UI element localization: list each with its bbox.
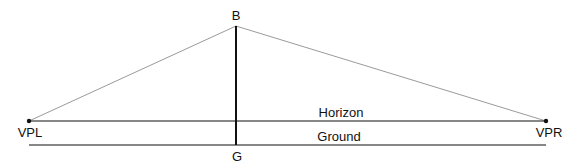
label-ground: Ground — [317, 129, 360, 144]
label-horizon: Horizon — [319, 105, 364, 120]
label-g: G — [232, 149, 242, 164]
label-vpl: VPL — [18, 125, 43, 140]
label-b: B — [232, 8, 241, 23]
construction-line-left — [29, 26, 236, 121]
vanishing-point-right-dot — [544, 119, 548, 123]
vanishing-point-left-dot — [27, 119, 31, 123]
label-vpr: VPR — [536, 125, 563, 140]
perspective-diagram: B G VPL VPR Horizon Ground — [0, 0, 572, 168]
construction-line-right — [236, 26, 546, 121]
